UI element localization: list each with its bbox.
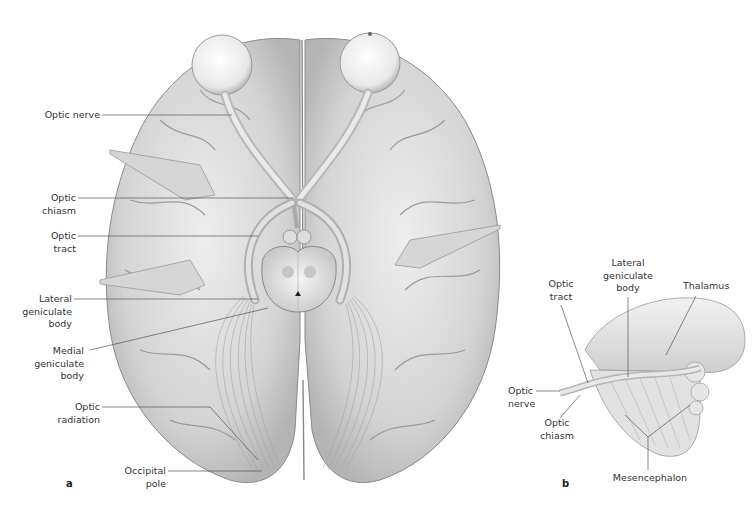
label-b-lateral-geniculate-body: Lateral geniculate body bbox=[596, 257, 660, 295]
label-b-optic-tract: Optic tract bbox=[536, 278, 586, 303]
panel-letter-a: a bbox=[66, 478, 73, 489]
label-optic-chiasm: Optic chiasm bbox=[20, 192, 76, 217]
panel-b-illustration bbox=[560, 298, 745, 456]
figure-root: Optic nerve Optic chiasm Optic tract Lat… bbox=[0, 0, 755, 519]
label-b-thalamus: Thalamus bbox=[683, 280, 729, 293]
label-optic-tract: Optic tract bbox=[20, 230, 76, 255]
label-b-optic-nerve: Optic nerve bbox=[508, 385, 535, 410]
label-medial-geniculate-body: Medial geniculate body bbox=[22, 345, 84, 383]
right-eyeball bbox=[340, 33, 400, 93]
label-lateral-geniculate-body: Lateral geniculate body bbox=[10, 293, 72, 331]
label-optic-nerve: Optic nerve bbox=[20, 109, 100, 122]
label-b-mesencephalon: Mesencephalon bbox=[610, 472, 690, 485]
label-optic-radiation: Optic radiation bbox=[40, 401, 100, 426]
label-b-optic-chiasm: Optic chiasm bbox=[532, 417, 582, 442]
label-occipital-pole: Occipital pole bbox=[104, 465, 166, 490]
panel-letter-b: b bbox=[562, 478, 569, 489]
left-eyeball bbox=[192, 35, 252, 95]
